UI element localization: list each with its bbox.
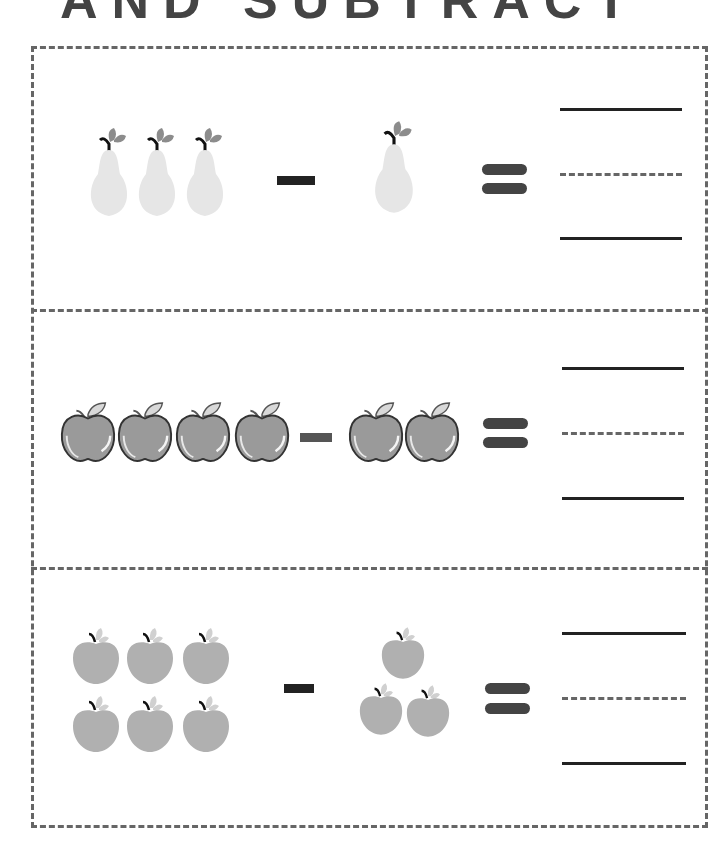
- answer-line-bottom[interactable]: [562, 762, 686, 765]
- pear-icon: [130, 120, 184, 220]
- answer-line-middle[interactable]: [562, 432, 684, 435]
- equals-sign-top: [482, 164, 527, 175]
- apple-icon: [358, 680, 404, 738]
- answer-line-bottom[interactable]: [562, 497, 684, 500]
- apple-icon: [71, 694, 121, 754]
- apple-icon: [59, 400, 117, 464]
- answer-line-middle[interactable]: [560, 173, 682, 176]
- apple-icon: [116, 400, 174, 464]
- equals-sign-bottom: [483, 437, 528, 448]
- minus-sign: [284, 684, 314, 693]
- apple-icon: [125, 694, 175, 754]
- equals-sign-top: [483, 418, 528, 429]
- apple-icon: [181, 694, 231, 754]
- pear-icon: [367, 113, 421, 217]
- answer-line-bottom[interactable]: [560, 237, 682, 240]
- answer-line-middle[interactable]: [562, 697, 686, 700]
- pear-icon: [178, 120, 232, 220]
- apple-icon: [347, 400, 405, 464]
- minus-sign: [277, 176, 315, 185]
- apple-icon: [71, 626, 121, 686]
- equals-sign-bottom: [485, 703, 530, 714]
- worksheet-title: AND SUBTRACT: [60, 0, 641, 30]
- apple-icon: [125, 626, 175, 686]
- row-divider-2: [31, 567, 708, 570]
- apple-icon: [403, 400, 461, 464]
- answer-line-top[interactable]: [562, 367, 684, 370]
- row-divider-1: [31, 309, 708, 312]
- apple-icon: [405, 682, 451, 740]
- minus-sign: [300, 433, 332, 442]
- answer-line-top[interactable]: [560, 108, 682, 111]
- apple-icon: [380, 624, 426, 682]
- answer-line-top[interactable]: [562, 632, 686, 635]
- apple-icon: [233, 400, 291, 464]
- apple-icon: [174, 400, 232, 464]
- equals-sign-bottom: [482, 183, 527, 194]
- pear-icon: [82, 120, 136, 220]
- apple-icon: [181, 626, 231, 686]
- equals-sign-top: [485, 683, 530, 694]
